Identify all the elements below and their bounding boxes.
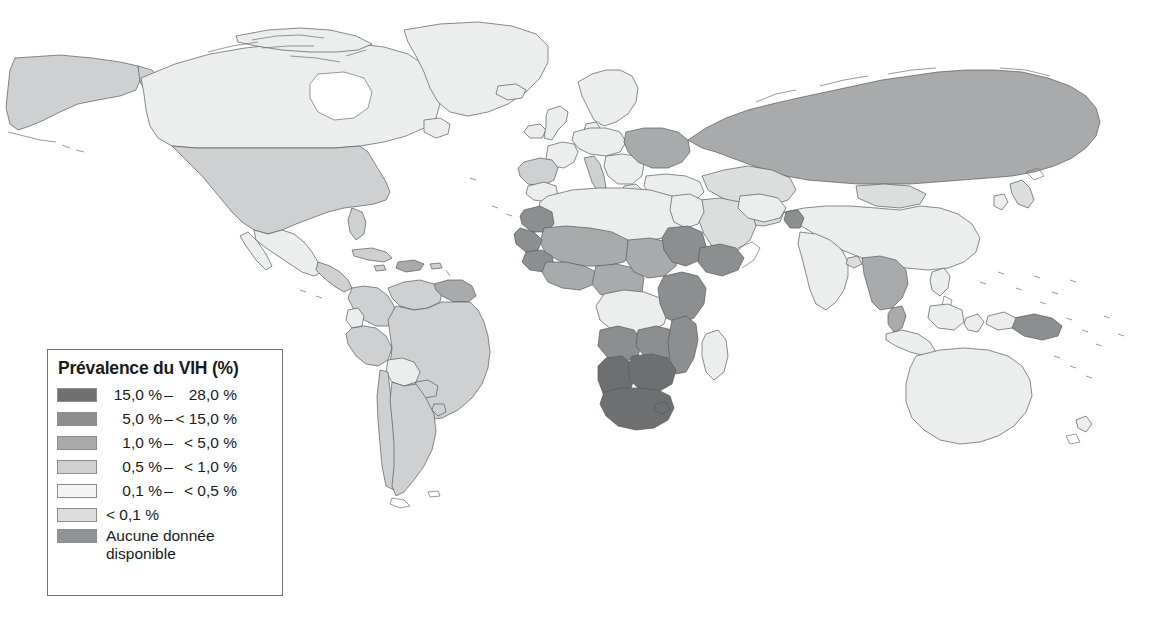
legend-label-no-data: Aucune donnée disponible	[106, 527, 215, 563]
country-puerto-rico	[430, 263, 442, 269]
legend-tier4-low: 0,5 %	[106, 459, 162, 475]
legend-tier2-low: 5,0 %	[106, 411, 162, 427]
legend-tier4-high: < 1,0 %	[175, 459, 237, 475]
legend-swatch-tier3	[57, 436, 97, 450]
map-legend: Prévalence du VIH (%) 15,0 % – 28,0 % 5,…	[47, 349, 283, 596]
legend-swatch-tier1	[57, 388, 97, 402]
legend-tier3-dash: –	[162, 435, 175, 451]
legend-row-tier5: 0,1 % – < 0,5 %	[57, 479, 273, 503]
legend-tier5-low: 0,1 %	[106, 483, 162, 499]
legend-label-tier1: 15,0 % – 28,0 %	[106, 387, 237, 403]
legend-label-tier2: 5,0 % – < 15,0 %	[106, 411, 237, 427]
legend-tier5-dash: –	[162, 483, 175, 499]
legend-row-tier6: < 0,1 %	[57, 503, 273, 527]
legend-swatch-no-data	[57, 529, 97, 543]
legend-tier2-dash: –	[162, 411, 175, 427]
legend-tier2-high: < 15,0 %	[175, 411, 237, 427]
legend-swatch-tier6	[57, 508, 97, 522]
legend-label-tier6: < 0,1 %	[106, 507, 159, 523]
world-map-figure: Prévalence du VIH (%) 15,0 % – 28,0 % 5,…	[0, 0, 1149, 625]
country-egypt	[670, 194, 704, 228]
legend-no-data-line2: disponible	[106, 545, 176, 562]
legend-tier5-high: < 0,5 %	[175, 483, 237, 499]
legend-row-no-data: Aucune donnée disponible	[57, 527, 273, 549]
legend-row-tier4: 0,5 % – < 1,0 %	[57, 455, 273, 479]
legend-label-tier4: 0,5 % – < 1,0 %	[106, 459, 237, 475]
legend-title: Prévalence du VIH (%)	[58, 358, 273, 378]
legend-tier3-low: 1,0 %	[106, 435, 162, 451]
legend-row-tier3: 1,0 % – < 5,0 %	[57, 431, 273, 455]
legend-label-tier5: 0,1 % – < 0,5 %	[106, 483, 237, 499]
legend-swatch-tier2	[57, 412, 97, 426]
legend-tier1-dash: –	[162, 387, 175, 403]
legend-swatch-tier5	[57, 484, 97, 498]
legend-row-tier2: 5,0 % – < 15,0 %	[57, 407, 273, 431]
legend-tier3-high: < 5,0 %	[175, 435, 237, 451]
legend-tier1-high: 28,0 %	[175, 387, 237, 403]
legend-no-data-line1: Aucune donnée	[106, 527, 215, 544]
legend-label-tier3: 1,0 % – < 5,0 %	[106, 435, 237, 451]
country-jamaica	[374, 265, 386, 271]
legend-tier1-low: 15,0 %	[106, 387, 162, 403]
legend-row-tier1: 15,0 % – 28,0 %	[57, 383, 273, 407]
legend-tier4-dash: –	[162, 459, 175, 475]
legend-swatch-tier4	[57, 460, 97, 474]
